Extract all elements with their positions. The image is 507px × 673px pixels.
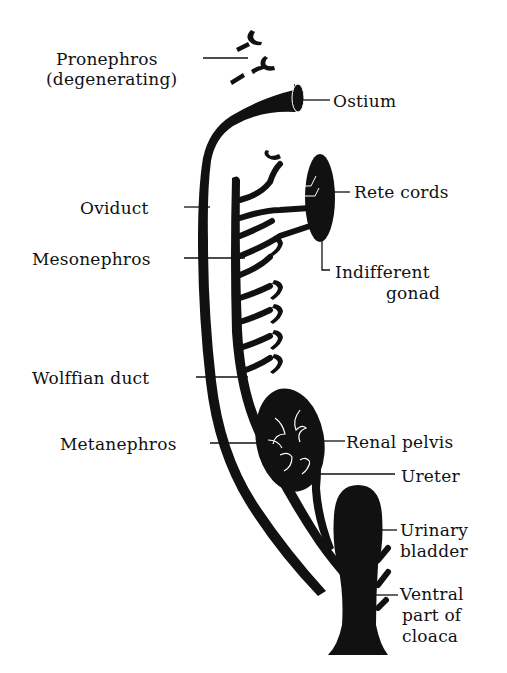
label-pronephros-sub: (degenerating)	[46, 70, 177, 89]
label-urinary-bladder-sub: bladder	[400, 542, 468, 561]
urogenital-diagram	[0, 0, 507, 673]
cloacal-stubs	[378, 548, 388, 608]
label-urinary-bladder: Urinary	[400, 521, 468, 540]
label-ostium: Ostium	[333, 92, 396, 111]
mesonephric-tubules	[240, 164, 310, 372]
label-ureter: Ureter	[401, 467, 460, 486]
label-ventral-cloaca-sub: part of	[402, 606, 461, 625]
label-rete-cords: Rete cords	[354, 183, 449, 202]
label-mesonephros: Mesonephros	[32, 250, 151, 269]
label-ventral-cloaca: Ventral	[400, 585, 464, 604]
label-oviduct: Oviduct	[80, 199, 149, 218]
label-ventral-cloaca-sub2: cloaca	[402, 627, 458, 646]
label-renal-pelvis: Renal pelvis	[346, 433, 453, 452]
label-pronephros: Pronephros	[56, 50, 158, 69]
label-indifferent-gonad: Indifferent	[335, 263, 430, 282]
label-metanephros: Metanephros	[60, 435, 177, 454]
label-indifferent-gonad-sub: gonad	[386, 284, 440, 303]
indifferent-gonad	[305, 154, 335, 242]
label-wolffian-duct: Wolffian duct	[32, 369, 149, 388]
